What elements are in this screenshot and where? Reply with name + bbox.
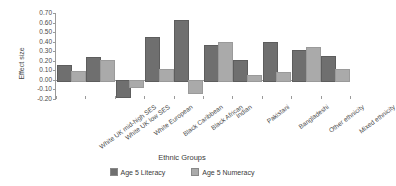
- bar-age5-numeracy: [100, 60, 115, 82]
- bar-age5-literacy: [292, 50, 307, 82]
- bar-group: [174, 13, 203, 99]
- y-tick-label: 0.50: [39, 28, 52, 36]
- y-tick-label: 0.20: [39, 57, 52, 65]
- y-tick-label: 0.10: [39, 66, 52, 74]
- x-axis-label: Pakistani: [266, 103, 292, 125]
- bar-group: [291, 13, 320, 99]
- x-tick-mark: [232, 96, 233, 99]
- bar-age5-numeracy: [71, 71, 86, 82]
- bar-age5-literacy: [86, 57, 101, 82]
- bar-age5-literacy: [174, 20, 189, 82]
- x-tick-mark: [144, 96, 145, 99]
- x-tick-mark: [56, 96, 57, 99]
- bar-series-container: [56, 13, 350, 99]
- bar-age5-literacy: [116, 80, 131, 98]
- plot-area: 0.700.600.500.400.300.200.100.00-0.10-0.…: [56, 13, 350, 99]
- y-tick-label: 0.00: [39, 76, 52, 84]
- bar-age5-numeracy: [188, 80, 203, 94]
- legend-item: Age 5 Numeracy: [191, 168, 254, 176]
- bar-age5-numeracy: [306, 47, 321, 81]
- bar-age5-literacy: [145, 37, 160, 82]
- legend-swatch: [110, 168, 118, 176]
- y-axis-title: Effect size: [14, 36, 28, 90]
- legend-label: Age 5 Literacy: [121, 169, 166, 176]
- x-tick-mark: [350, 96, 351, 99]
- bar-age5-numeracy: [335, 69, 350, 82]
- bar-group: [321, 13, 350, 99]
- bar-age5-literacy: [233, 60, 248, 82]
- y-tick-label: 0.30: [39, 47, 52, 55]
- bar-age5-numeracy: [247, 75, 262, 82]
- bar-age5-literacy: [263, 42, 278, 82]
- x-tick-mark: [262, 96, 263, 99]
- legend-label: Age 5 Numeracy: [202, 169, 254, 176]
- y-tick-label: 0.70: [39, 9, 52, 17]
- x-tick-mark: [291, 96, 292, 99]
- x-tick-mark: [115, 96, 116, 99]
- x-tick-mark: [85, 96, 86, 99]
- bar-group: [85, 13, 114, 99]
- bar-age5-numeracy: [276, 72, 291, 82]
- y-tick-label: 0.60: [39, 19, 52, 27]
- bar-group: [56, 13, 85, 99]
- x-axis-label: Bangladeshi: [297, 103, 330, 131]
- bar-age5-literacy: [321, 56, 336, 82]
- y-tick-label: -0.20: [37, 95, 52, 103]
- x-axis-title: Ethnic Groups: [0, 153, 364, 162]
- bar-age5-numeracy: [159, 69, 174, 82]
- bar-group: [232, 13, 261, 99]
- bar-age5-numeracy: [218, 42, 233, 82]
- bar-age5-literacy: [204, 45, 219, 81]
- legend-item: Age 5 Literacy: [110, 168, 166, 176]
- x-axis-label: White UK mid-high SES: [98, 103, 158, 151]
- x-tick-mark: [174, 96, 175, 99]
- bar-group: [203, 13, 232, 99]
- bar-age5-numeracy: [129, 80, 144, 88]
- legend-swatch: [191, 168, 199, 176]
- x-tick-mark: [321, 96, 322, 99]
- y-tick-label: 0.40: [39, 38, 52, 46]
- bar-age5-literacy: [57, 65, 72, 82]
- bar-group: [262, 13, 291, 99]
- y-tick-label: -0.10: [37, 85, 52, 93]
- y-tick-mark: [53, 99, 56, 100]
- x-tick-mark: [203, 96, 204, 99]
- bar-group: [115, 13, 144, 99]
- chart-legend: Age 5 LiteracyAge 5 Numeracy: [0, 168, 364, 176]
- bar-group: [144, 13, 173, 99]
